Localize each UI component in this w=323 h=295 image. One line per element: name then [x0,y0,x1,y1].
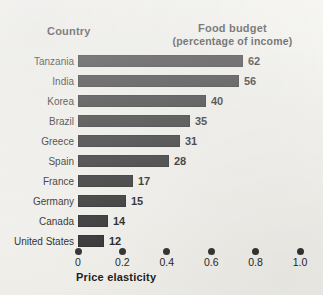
axis-tick-dot [119,248,126,255]
axis-tick-label: 0 [58,256,98,268]
axis-tick-label: 1.0 [280,256,320,268]
x-axis: 00.20.40.60.81.0 [0,0,323,295]
axis-tick-label: 0.4 [147,256,187,268]
axis-tick-dot [297,248,304,255]
axis-tick-dot [252,248,259,255]
axis-tick-dot [75,248,82,255]
chart-container: Country Food budget (percentage of incom… [0,0,323,295]
axis-tick-label: 0.8 [236,256,276,268]
axis-tick-dot [208,248,215,255]
axis-tick-label: 0.2 [102,256,142,268]
axis-tick-dot [163,248,170,255]
axis-tick-label: 0.6 [191,256,231,268]
x-axis-title: Price elasticity [76,271,156,283]
